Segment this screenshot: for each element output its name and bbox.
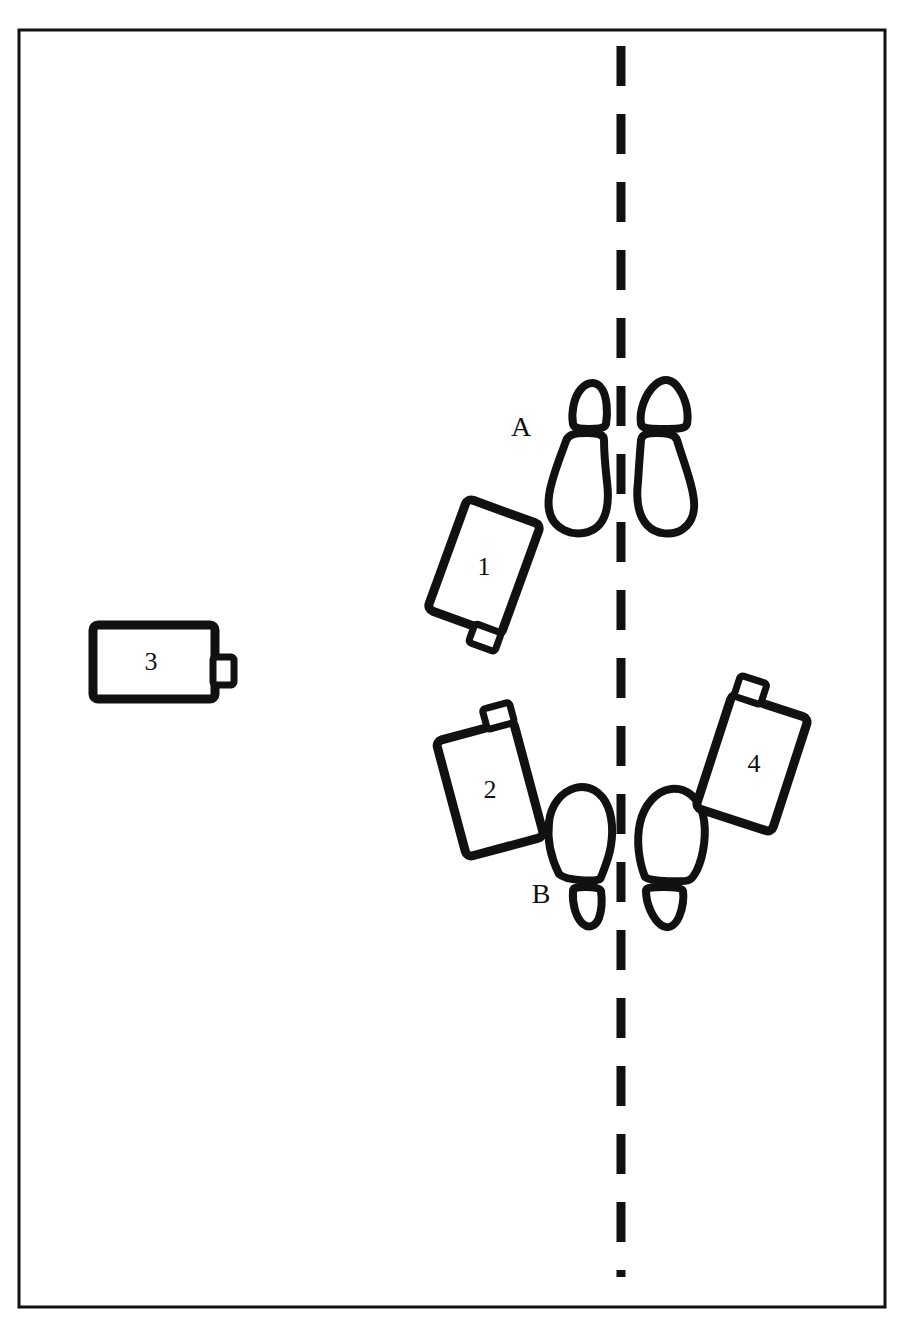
footprint-label-b: B: [532, 878, 551, 909]
footprint-b-left-sole: [548, 787, 612, 881]
footprint-a-left-sole: [549, 433, 608, 533]
footprint-a-right-sole: [637, 433, 694, 534]
footprint-label-a: A: [511, 411, 532, 442]
footprint-group-a: A: [511, 380, 694, 533]
footprint-b-left-heel: [573, 887, 602, 926]
object-1-label: 1: [478, 552, 491, 581]
object-4: 4: [695, 675, 814, 833]
object-4-tab: [734, 675, 767, 705]
object-3: 3: [93, 625, 234, 699]
object-2-tab: [482, 702, 514, 730]
object-2-label: 2: [484, 775, 497, 804]
object-3-tab: [213, 657, 234, 685]
scene-svg: A B 1 2 3: [0, 0, 907, 1330]
footprint-a-right-heel: [641, 380, 688, 429]
object-2: 2: [431, 702, 545, 857]
object-3-label: 3: [145, 647, 158, 676]
object-1-tab: [468, 623, 501, 651]
footprint-a-left-heel: [572, 383, 607, 429]
footprint-b-right-heel: [646, 887, 683, 927]
object-1: 1: [421, 498, 540, 652]
figure-canvas: A B 1 2 3: [0, 0, 907, 1330]
object-4-label: 4: [748, 749, 761, 778]
